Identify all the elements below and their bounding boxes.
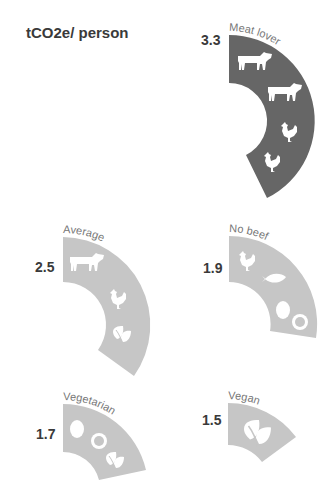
egg-icon	[276, 301, 290, 319]
wedge-meat-lover: Meat lover	[229, 21, 315, 198]
egg-icon	[70, 420, 84, 438]
wedge-vegan: Vegan	[228, 389, 296, 462]
boiled-egg-icon	[91, 433, 107, 449]
wedge-average: Average	[63, 223, 150, 376]
wedge-vegetarian: Vegetarian	[63, 390, 146, 480]
boiled-egg-icon	[292, 314, 308, 330]
wedge-no-beef: No beef	[229, 222, 317, 338]
diet-wedges: Meat lover Average No beef Vegetarian Ve…	[0, 0, 328, 501]
